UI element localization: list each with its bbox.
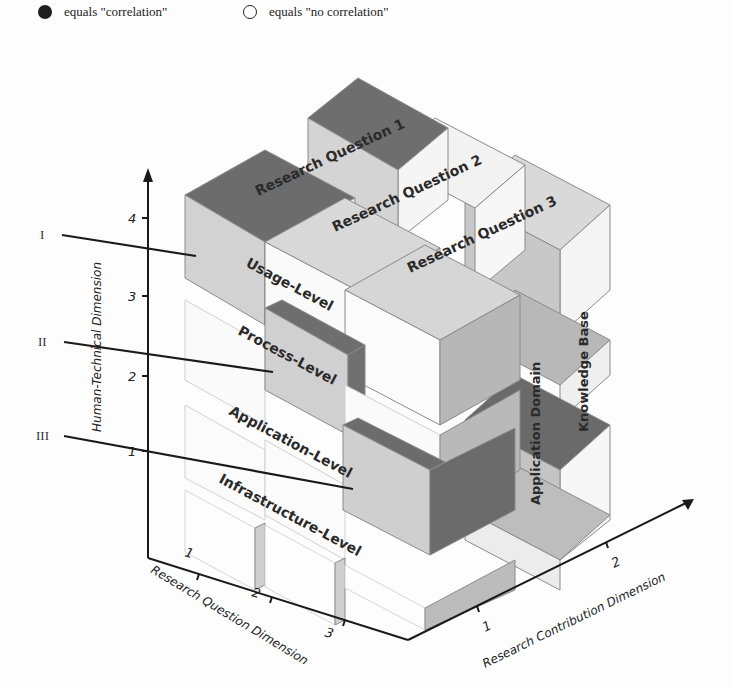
label-knowledge-base: Knowledge Base bbox=[576, 311, 591, 432]
cube-blocks bbox=[185, 78, 610, 630]
right-tick-2: 2 bbox=[609, 554, 623, 571]
vertical-tick-3: 3 bbox=[128, 289, 136, 304]
pointer-line-i bbox=[62, 235, 196, 256]
vertical-axis-arrow-icon bbox=[143, 168, 153, 182]
vertical-tick-4: 4 bbox=[128, 211, 136, 226]
pointer-label-iii: III bbox=[36, 428, 49, 443]
pointer-label-i: I bbox=[40, 227, 44, 242]
label-application-domain: Application Domain bbox=[528, 362, 543, 505]
vertical-tick-1: 1 bbox=[128, 444, 136, 459]
pointer-label-ii: II bbox=[38, 334, 47, 349]
left-tick-3: 3 bbox=[323, 625, 335, 642]
right-tick-1: 1 bbox=[480, 618, 494, 635]
block-rq3-infrastructure bbox=[345, 560, 515, 630]
cube-diagram: 1 2 3 4 Human-Technical Dimension 1 2 3 … bbox=[0, 0, 730, 688]
vertical-tick-2: 2 bbox=[128, 369, 136, 384]
block-rq1-process bbox=[185, 300, 265, 425]
